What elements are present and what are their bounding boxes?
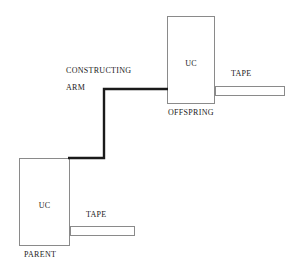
- offspring-uc-box: UC: [167, 16, 215, 104]
- offspring-caption: OFFSPRING: [168, 108, 214, 117]
- parent-tape: [70, 226, 135, 236]
- offspring-tape: [215, 86, 285, 96]
- parent-uc-box: UC: [19, 158, 70, 246]
- constructing-arm-path: [68, 89, 168, 158]
- constructing-arm-label-line2: ARM: [66, 83, 85, 92]
- offspring-uc-label: UC: [168, 59, 214, 68]
- parent-uc-label: UC: [20, 201, 69, 210]
- diagram-canvas: UC TAPE OFFSPRING UC TAPE PARENT CONSTRU…: [0, 0, 299, 278]
- offspring-tape-label: TAPE: [231, 69, 252, 78]
- constructing-arm-label-line1: CONSTRUCTING: [66, 66, 131, 75]
- parent-caption: PARENT: [24, 250, 56, 259]
- parent-tape-label: TAPE: [86, 210, 107, 219]
